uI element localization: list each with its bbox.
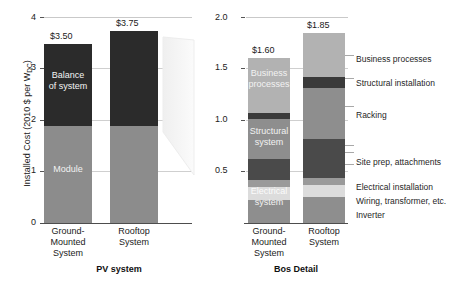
ytick-0: 0 <box>31 218 36 227</box>
xtick-rooftop-bos: Rooftop System <box>303 226 345 248</box>
group-label-line1: Structural <box>248 126 290 137</box>
zoom-connector-shape <box>158 28 200 180</box>
xtick-line2: System <box>303 237 345 248</box>
ytick-3: 3 <box>31 63 36 72</box>
segment-label-balance-of-system: Balance of system <box>44 70 92 91</box>
xtick-line3: System <box>44 248 92 259</box>
x-axis-line-left <box>40 223 192 224</box>
segment-label-module-text: Module <box>44 164 92 175</box>
xtick-line2: Mounted <box>248 237 290 248</box>
segment-label-line1: Balance <box>44 70 92 81</box>
leader-line-business-processes <box>345 55 354 56</box>
ytick-mark-1-0 <box>241 120 245 121</box>
ytick-2-0: 2.0 <box>215 13 228 22</box>
ytick-mark-4 <box>40 17 44 18</box>
xtick-line2: System <box>110 237 158 248</box>
callout-site-prep-attachments: Site prep, attachments <box>356 158 441 167</box>
xtick-ground-mounted-bos: Ground- Mounted System <box>248 226 290 259</box>
x-axis-line-right <box>244 223 348 224</box>
segment-structural-installation[interactable] <box>303 77 345 88</box>
group-label-line2: processes <box>248 79 290 90</box>
segment-business-processes[interactable] <box>303 33 345 77</box>
bar-ground-mounted-pv[interactable]: Balance of system Module <box>44 44 92 223</box>
y-axis-label-main: Installed Cost (2010 $ per W <box>22 73 32 187</box>
group-label-line1: Electrical <box>248 186 290 197</box>
ytick-2: 2 <box>31 115 36 124</box>
segment-label-module: Module <box>44 164 92 175</box>
gridline-2-0 <box>246 17 348 18</box>
bar-total-ground-mounted-bos: $1.60 <box>252 46 275 55</box>
bar-total-rooftop-bos: $1.85 <box>307 21 330 30</box>
ytick-1: 1 <box>31 166 36 175</box>
group-label-line1: Business <box>248 68 290 79</box>
xtick-ground-mounted-pv: Ground- Mounted System <box>44 226 92 259</box>
ytick-4: 4 <box>31 13 36 22</box>
bar-rooftop-pv[interactable] <box>110 31 158 223</box>
leader-line-structural-installation <box>345 78 354 79</box>
bar-ground-mounted-bos[interactable]: Business processes Structural system Ele… <box>248 58 290 223</box>
leader-line-racking <box>345 106 354 107</box>
xtick-line1: Ground- <box>248 226 290 237</box>
callout-racking: Racking <box>356 111 387 120</box>
chart-figure: Installed Cost (2010 $ per WDC) 4 3 2 1 … <box>0 0 459 290</box>
segment-site-prep-attachments[interactable] <box>248 159 290 180</box>
ytick-mark-0-5 <box>241 171 245 172</box>
panel-title-pv-system: PV system <box>44 265 194 274</box>
bar-total-rooftop-pv: $3.75 <box>116 19 139 28</box>
callout-electrical-installation: Electrical installation <box>356 183 433 192</box>
callout-inverter: Inverter <box>356 211 385 220</box>
xtick-line3: System <box>248 248 290 259</box>
ytick-0-5: 0.5 <box>215 166 228 175</box>
group-label-electrical-system: Electrical system <box>248 186 290 207</box>
segment-wiring-transformer[interactable] <box>303 185 345 197</box>
xtick-line1: Rooftop <box>110 226 158 237</box>
callout-business-processes: Business processes <box>356 55 432 64</box>
segment-module[interactable] <box>44 126 92 223</box>
segment-site-prep-attachments[interactable] <box>303 139 345 178</box>
segment-racking[interactable] <box>303 88 345 139</box>
ytick-mark-2-0 <box>241 17 245 18</box>
segment-label-line2: of system <box>44 81 92 92</box>
leader-line-electrical-installation <box>345 152 354 153</box>
xtick-line2: Mounted <box>44 237 92 248</box>
xtick-line1: Ground- <box>44 226 92 237</box>
segment-balance-of-system[interactable] <box>110 31 158 126</box>
leader-line-site-prep <box>345 145 354 146</box>
group-label-line2: system <box>248 137 290 148</box>
callout-wiring-transformer: Wiring, transformer, etc. <box>356 197 446 206</box>
group-label-structural-system: Structural system <box>248 126 290 147</box>
xtick-rooftop-pv: Rooftop System <box>110 226 158 248</box>
segment-electrical-installation[interactable] <box>303 178 345 185</box>
xtick-line1: Rooftop <box>303 226 345 237</box>
callout-structural-installation: Structural installation <box>356 79 435 88</box>
ytick-mark-1-5 <box>241 68 245 69</box>
segment-inverter[interactable] <box>303 197 345 223</box>
leader-line-wiring-transformer <box>345 164 354 165</box>
segment-module[interactable] <box>110 126 158 223</box>
group-label-line2: system <box>248 197 290 208</box>
bar-rooftop-bos[interactable] <box>303 33 345 223</box>
ytick-1-5: 1.5 <box>215 63 228 72</box>
panel-title-bos-detail: Bos Detail <box>244 265 348 274</box>
y-axis-label-tail: ) <box>22 60 32 63</box>
ytick-1-0: 1.0 <box>215 115 228 124</box>
bar-total-ground-mounted-pv: $3.50 <box>50 32 73 41</box>
group-label-business-processes: Business processes <box>248 68 290 89</box>
